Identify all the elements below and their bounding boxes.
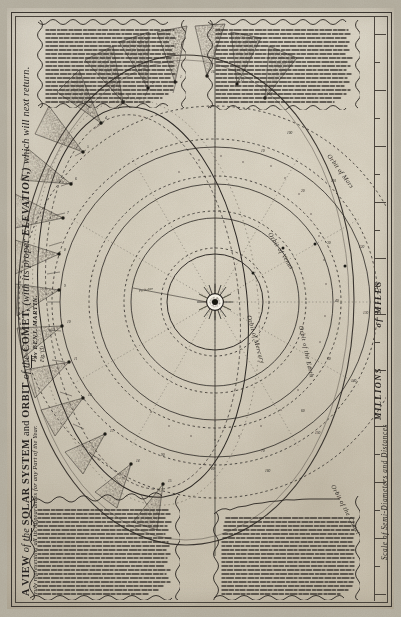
explanatory-note-bottom-left: The COMET, which has been frequently obs… (28, 492, 180, 600)
svg-text:90: 90 (161, 453, 165, 457)
explanatory-note-top-right: Explanation of the Comet's Tail, its Len… (206, 18, 360, 110)
cartouche-vine-frame (208, 20, 361, 111)
cartouche-vine-frame (38, 20, 187, 109)
planet-markers (252, 243, 347, 275)
orbit-label-mercury: Orbit of Mercury (246, 314, 267, 364)
svg-text:60: 60 (301, 409, 305, 413)
comet-nuclei (57, 74, 266, 485)
svg-text:12: 12 (88, 393, 92, 397)
svg-text:5: 5 (87, 145, 89, 149)
cartouche-text-lines (222, 518, 354, 594)
svg-text:130: 130 (363, 311, 369, 315)
svg-text:110: 110 (331, 179, 336, 183)
svg-text:6: 6 (75, 177, 77, 181)
scale-ruler (374, 16, 386, 601)
cartouche-text-lines (46, 30, 177, 102)
svg-text:11: 11 (74, 357, 78, 361)
title-elevation: ELEVATION,) (20, 167, 31, 236)
plate-label: Pl. (30, 354, 38, 362)
engraving-plate: Perihelion (0, 0, 401, 617)
svg-text:4: 4 (105, 116, 107, 120)
svg-text:40: 40 (335, 299, 339, 303)
svg-text:140: 140 (351, 379, 357, 383)
svg-text:9: 9 (64, 284, 66, 288)
svg-text:14: 14 (136, 459, 140, 463)
cartouche-text-lines (216, 30, 352, 102)
svg-text:30: 30 (327, 241, 331, 245)
svg-text:160: 160 (265, 469, 271, 473)
svg-text:13: 13 (110, 429, 114, 433)
svg-text:7: 7 (67, 211, 69, 215)
svg-text:10: 10 (67, 320, 71, 324)
svg-text:70: 70 (261, 449, 265, 453)
figure-label: Fig. (3) (39, 346, 45, 362)
plate-figure-number: Pl. Fig. (3) (22, 346, 45, 362)
explanatory-note-top-left: And that ye may know at any time the Com… (36, 18, 186, 108)
title-next-return: which will next return. (20, 67, 31, 164)
svg-text:100: 100 (287, 131, 293, 135)
svg-text:15: 15 (168, 479, 172, 483)
title-of-2: of (20, 371, 31, 379)
title-orbit: ORBIT (20, 382, 31, 418)
degree-numbers: 10 20 30 40 50 60 70 80 90 100 110 120 1… (161, 131, 369, 473)
comet-position-numbers: 1 2 3 4 5 6 7 8 9 10 11 12 13 14 15 16 1… (64, 70, 273, 483)
cartouche-vine-frame (214, 496, 361, 600)
perihelion-label: Perihelion (137, 287, 153, 294)
svg-text:50: 50 (327, 357, 331, 361)
sun-symbol (197, 284, 233, 320)
svg-text:120: 120 (359, 245, 365, 249)
svg-text:10: 10 (261, 149, 265, 153)
engraving-stipple (150, 155, 326, 440)
orbit-label-earth: Orbit of the Earth (298, 325, 316, 378)
title-paren-open: (with its proper (20, 239, 31, 306)
cartouche-text-lines (38, 510, 172, 594)
svg-text:8: 8 (64, 248, 66, 252)
explanatory-note-bottom-right: Usage of the Scale, and the description … (212, 492, 360, 600)
svg-text:20: 20 (301, 189, 305, 193)
orbit-label-venus: Orbit of Venus (267, 231, 296, 271)
svg-text:150: 150 (315, 431, 321, 435)
orbit-label-mars: Orbit of Mars (326, 152, 356, 189)
title-and: and (20, 421, 31, 436)
svg-text:80: 80 (211, 467, 215, 471)
ecliptic-great-circle (18, 55, 354, 545)
